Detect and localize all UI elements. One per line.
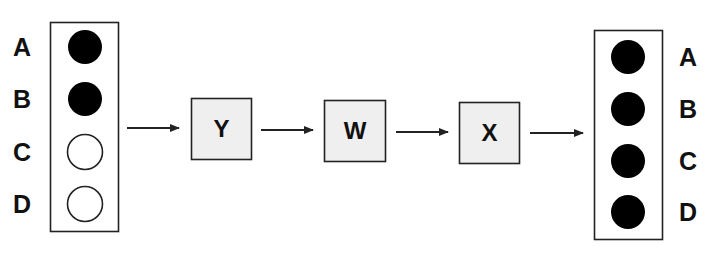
row-label: B <box>13 85 31 113</box>
input-panel: ABCD <box>13 23 119 232</box>
filled-circle-indicator <box>68 30 102 64</box>
row-label: C <box>13 138 31 166</box>
process-node-w: W <box>325 101 386 162</box>
filled-circle-indicator <box>611 144 645 178</box>
filled-circle-indicator <box>611 40 645 74</box>
empty-circle-indicator <box>68 187 103 222</box>
filled-circle-indicator <box>611 195 645 229</box>
row-label: B <box>679 95 697 123</box>
filled-circle-indicator <box>68 82 102 116</box>
filled-circle-indicator <box>611 92 645 126</box>
empty-circle-indicator <box>68 135 103 170</box>
row-label: A <box>13 33 31 61</box>
row-label: C <box>679 147 697 175</box>
row-label: A <box>679 43 697 71</box>
node-label: W <box>344 117 367 144</box>
process-node-y: Y <box>192 99 252 160</box>
node-label: Y <box>213 115 229 142</box>
process-node-x: X <box>460 103 520 164</box>
node-label: X <box>481 119 497 146</box>
row-label: D <box>679 198 697 226</box>
output-panel: ABCD <box>595 31 698 240</box>
process-diagram: ABCD Y W X ABCD <box>0 0 707 256</box>
row-label: D <box>13 190 31 218</box>
